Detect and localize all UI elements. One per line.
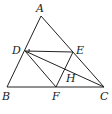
segment-df xyxy=(25,51,56,87)
segments xyxy=(7,16,104,87)
point-labels: A B C D E F H xyxy=(1,2,109,103)
label-f: F xyxy=(51,90,60,103)
label-a: A xyxy=(35,2,44,15)
label-b: B xyxy=(1,90,10,103)
segment-de xyxy=(25,51,73,52)
label-c: C xyxy=(100,90,109,103)
label-d: D xyxy=(11,44,21,57)
geometry-diagram: A B C D E F H xyxy=(0,0,112,114)
label-e: E xyxy=(75,44,84,57)
label-h: H xyxy=(65,72,76,85)
